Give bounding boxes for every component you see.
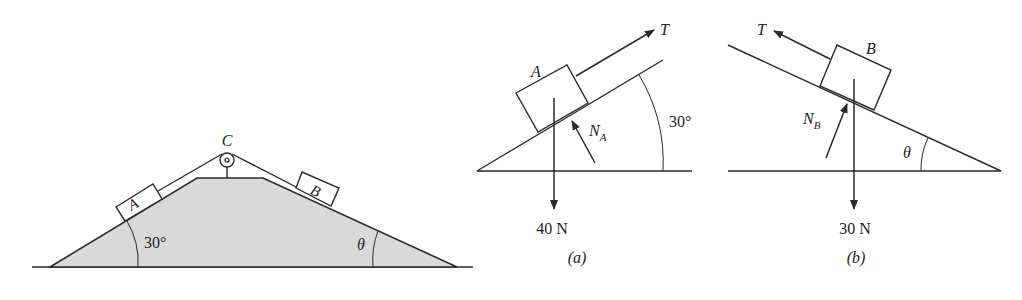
main-figure: A B C 30° θ	[32, 132, 473, 267]
weight-label-b: 30 N	[839, 220, 871, 237]
right-angle-label: θ	[357, 236, 365, 253]
normal-arrow-b	[826, 104, 847, 158]
tension-label-a: T	[660, 21, 670, 38]
pulley-axle-icon	[225, 158, 229, 162]
free-body-diagram-b: T B NB θ 30 N (b)	[728, 21, 1001, 267]
caption-b: (b)	[847, 249, 866, 267]
angle-arc-b	[921, 138, 928, 171]
tension-arrow-a	[576, 30, 654, 76]
angle-label-b: θ	[903, 144, 911, 161]
block-label-b: B	[866, 40, 876, 57]
free-body-diagram-a: T A NA 30° 40 N (a)	[477, 21, 692, 267]
tension-label-b: T	[757, 21, 767, 38]
normal-label-a: NA	[588, 122, 607, 143]
tension-arrow-b	[774, 31, 830, 59]
angle-arc-a	[639, 75, 663, 171]
weight-label-a: 40 N	[536, 220, 568, 237]
block-label-a: A	[530, 63, 541, 80]
block-b-fbd	[820, 45, 891, 110]
diagram-canvas: A B C 30° θ T A NA 30° 40 N (a) T B NB	[0, 0, 1022, 300]
angle-label-a: 30°	[669, 113, 691, 130]
normal-label-b: NB	[802, 110, 821, 131]
caption-a: (a)	[568, 249, 587, 267]
left-angle-label: 30°	[144, 234, 166, 251]
trapezoid-incline	[50, 178, 457, 267]
pulley-label: C	[222, 132, 233, 149]
